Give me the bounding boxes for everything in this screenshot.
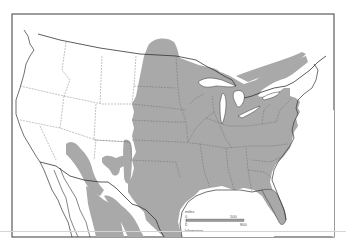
scale-miles-end: 500 [230, 214, 237, 219]
scan-artifact-line [0, 231, 346, 232]
range-map: miles 0 500 0 800 kilometers [0, 0, 346, 250]
scale-km-end: 800 [240, 222, 247, 227]
range-sierra-strip [123, 139, 132, 183]
